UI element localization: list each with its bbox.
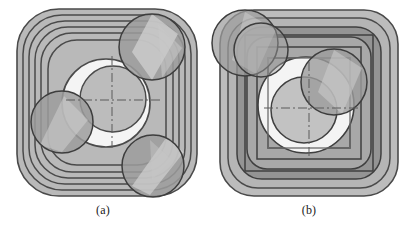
panel-b-caption: (b) [302, 203, 317, 217]
panel-a-canvas [0, 0, 206, 205]
panel-a-caption: (a) [96, 203, 110, 217]
panel-b: (b) [206, 0, 412, 234]
probe-circle-right-b [301, 49, 367, 115]
probe-circle-top-right-a [119, 14, 185, 80]
panel-a: (a) [0, 0, 206, 234]
probe-circle-top-left-inner-b [234, 23, 288, 77]
probe-circle-bottom-right-a [122, 135, 184, 197]
panel-b-canvas [206, 0, 412, 205]
figure-container: (a) [0, 0, 413, 234]
